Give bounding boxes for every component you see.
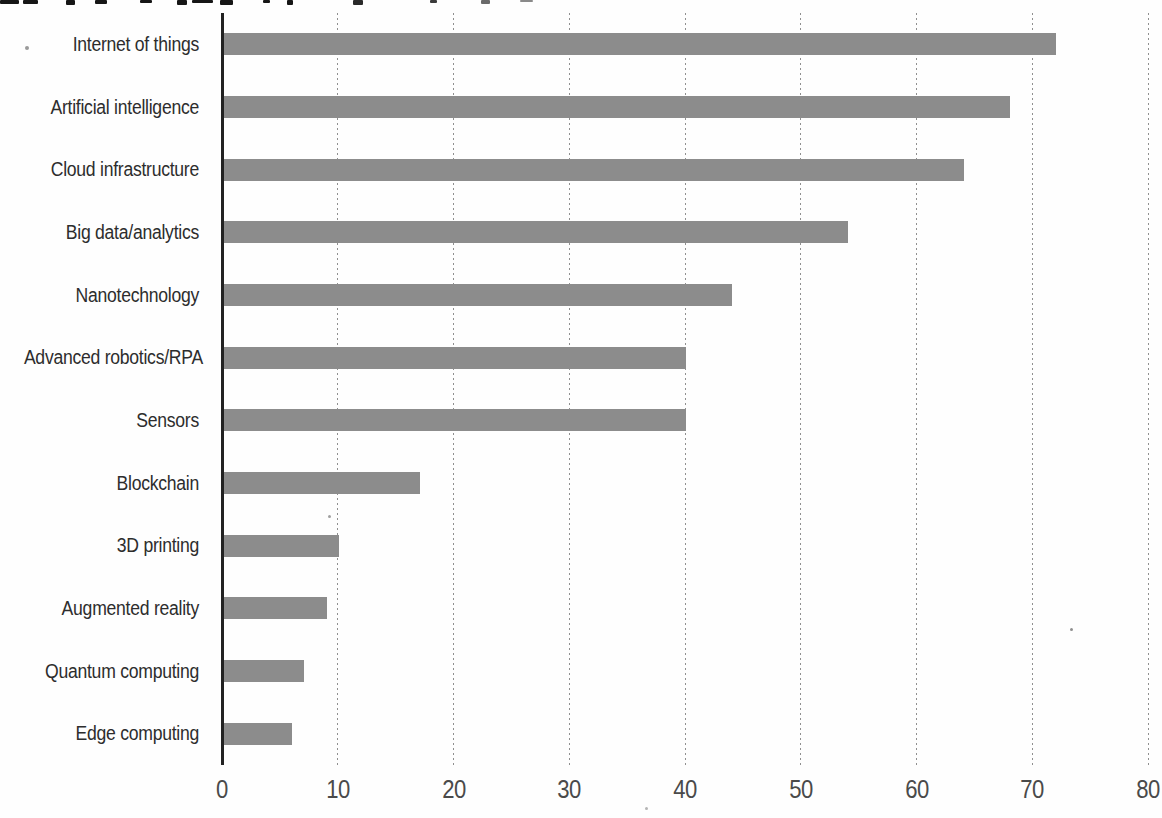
cropped-title-ink <box>263 0 270 3</box>
category-label: Nanotechnology <box>24 284 199 307</box>
bar-row: Quantum computing <box>0 640 1148 703</box>
category-label: Advanced robotics/RPA <box>24 346 199 369</box>
cropped-title-ink <box>95 0 107 4</box>
bar <box>223 597 327 619</box>
bar <box>223 284 732 306</box>
cropped-title-ink <box>140 0 152 3</box>
bar-row: Big data/analytics <box>0 201 1148 264</box>
category-label: 3D printing <box>24 534 199 557</box>
x-tick-label: 80 <box>1136 774 1160 805</box>
cropped-title-ink <box>353 0 363 5</box>
bar-rows: Internet of thingsArtificial intelligenc… <box>0 13 1148 765</box>
bar-row: 3D printing <box>0 514 1148 577</box>
bar <box>223 159 964 181</box>
category-label: Artificial intelligence <box>24 96 199 119</box>
x-tick-label: 70 <box>1020 774 1044 805</box>
x-tick-label: 10 <box>326 774 350 805</box>
bar <box>223 409 686 431</box>
category-label: Internet of things <box>24 33 199 56</box>
bar-chart-figure: Internet of thingsArtificial intelligenc… <box>0 0 1162 818</box>
category-label: Sensors <box>24 409 199 432</box>
bar <box>223 221 848 243</box>
cropped-title-ink <box>430 0 437 3</box>
bar-row: Artificial intelligence <box>0 76 1148 139</box>
cropped-title-ink <box>220 0 233 5</box>
cropped-title-ink <box>0 0 19 4</box>
x-tick-label: 20 <box>442 774 466 805</box>
bar-row: Internet of things <box>0 13 1148 76</box>
x-axis-tick-labels: 01020304050607080 <box>222 774 1148 812</box>
x-tick-label: 40 <box>673 774 697 805</box>
x-tick-label: 0 <box>216 774 228 805</box>
bar <box>223 660 304 682</box>
bar-row: Edge computing <box>0 702 1148 765</box>
cropped-title-ink <box>520 0 533 2</box>
category-label: Augmented reality <box>24 597 199 620</box>
category-label: Quantum computing <box>24 660 199 683</box>
bar <box>223 347 686 369</box>
x-tick-label: 30 <box>557 774 581 805</box>
x-tick-label: 50 <box>789 774 813 805</box>
cropped-title-ink <box>23 0 38 4</box>
bar-row: Advanced robotics/RPA <box>0 326 1148 389</box>
bar <box>223 33 1056 55</box>
bar <box>223 723 292 745</box>
category-label: Cloud infrastructure <box>24 158 199 181</box>
bar <box>223 96 1010 118</box>
cropped-title-ink <box>481 0 490 4</box>
category-label: Big data/analytics <box>24 221 199 244</box>
category-label: Edge computing <box>24 722 199 745</box>
bar-row: Cloud infrastructure <box>0 138 1148 201</box>
cropped-title-ink <box>287 0 293 5</box>
bar-row: Nanotechnology <box>0 264 1148 327</box>
bar-row: Blockchain <box>0 452 1148 515</box>
cropped-title-ink <box>177 0 187 5</box>
bar <box>223 472 420 494</box>
bar-row: Sensors <box>0 389 1148 452</box>
cropped-title-ink <box>192 0 213 3</box>
bar <box>223 535 339 557</box>
cropped-title-ink <box>66 0 75 5</box>
y-axis-line <box>221 13 224 765</box>
bar-row: Augmented reality <box>0 577 1148 640</box>
category-label: Blockchain <box>24 472 199 495</box>
x-tick-label: 60 <box>905 774 929 805</box>
